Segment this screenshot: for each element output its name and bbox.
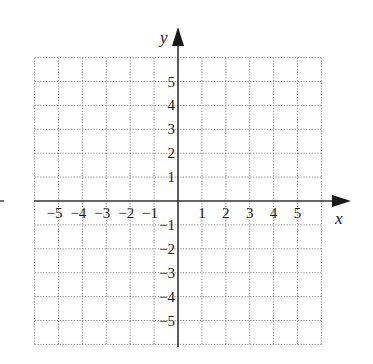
y-tick-label: 2 [168, 145, 176, 161]
y-tick-label: 5 [168, 74, 176, 90]
y-tick-label: −3 [159, 265, 175, 281]
y-tick-label: −5 [159, 313, 175, 329]
x-tick-label: 2 [222, 205, 230, 221]
axes [0, 27, 351, 347]
y-tick-label: −4 [159, 289, 175, 305]
y-tick-label: −1 [159, 217, 175, 233]
x-tick-label: 4 [270, 205, 278, 221]
y-tick-label: −2 [159, 241, 175, 257]
y-tick-label: 3 [168, 121, 176, 137]
x-tick-label: −3 [94, 205, 110, 221]
x-tick-label: 5 [294, 205, 302, 221]
coordinate-plane: x y −5−4−3−2−112345 54321−1−2−3−4−5 [0, 0, 373, 364]
y-axis-arrow-icon [172, 27, 184, 46]
y-tick-label: 4 [168, 97, 176, 113]
x-tick-label: 1 [198, 205, 206, 221]
x-tick-label: −4 [70, 205, 86, 221]
y-axis-label: y [158, 28, 168, 47]
x-axis-label: x [334, 209, 343, 228]
x-tick-label: 3 [246, 205, 254, 221]
x-axis-arrow-icon [332, 195, 351, 207]
x-tick-label: −2 [118, 205, 134, 221]
x-tick-label: −5 [47, 205, 63, 221]
y-tick-label: 1 [168, 169, 176, 185]
x-tick-label: −1 [142, 205, 158, 221]
